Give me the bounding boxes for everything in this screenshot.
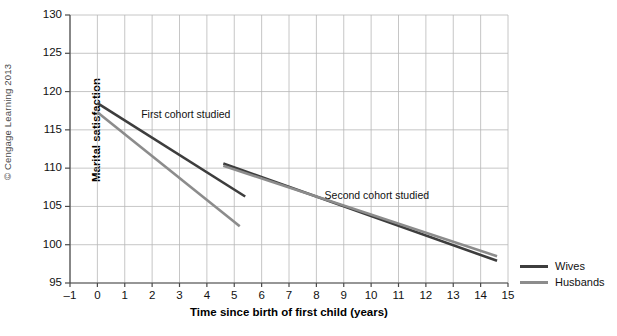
x-axis-tick-label: 3	[165, 289, 195, 301]
x-axis-tick-label: –1	[55, 289, 85, 301]
y-axis-tick-label: 110	[22, 161, 62, 173]
y-axis-tick-label: 125	[22, 46, 62, 58]
y-axis-tick-label: 120	[22, 85, 62, 97]
x-axis-tick-label: 2	[137, 289, 167, 301]
x-axis-tick-label: 1	[110, 289, 140, 301]
x-axis-tick-label: 8	[301, 289, 331, 301]
x-axis-tick-label: 13	[438, 289, 468, 301]
legend-item: Husbands	[520, 274, 605, 290]
legend-label: Wives	[555, 260, 585, 272]
x-axis-tick-label: 4	[192, 289, 222, 301]
marital-satisfaction-figure: © Cengage Learning 2013 Marital satisfac…	[0, 0, 617, 336]
legend-label: Husbands	[555, 276, 605, 288]
x-axis-label: Time since birth of first child (years)	[70, 306, 508, 318]
y-axis-tick-label: 100	[22, 238, 62, 250]
cohort-annotation: First cohort studied	[141, 108, 230, 120]
legend-item: Wives	[520, 258, 605, 274]
y-axis-tick-label: 105	[22, 199, 62, 211]
x-axis-tick-label: 12	[411, 289, 441, 301]
cohort-annotation: Second cohort studied	[325, 189, 430, 201]
x-axis-tick-label: 6	[247, 289, 277, 301]
legend-swatch-icon	[520, 281, 548, 284]
x-axis-tick-label: 7	[274, 289, 304, 301]
y-axis-tick-label: 95	[22, 276, 62, 288]
x-axis-tick-label: 0	[82, 289, 112, 301]
series-line-husbands	[223, 166, 497, 256]
legend-swatch-icon	[520, 265, 548, 268]
x-axis-tick-label: 9	[329, 289, 359, 301]
x-axis-tick-label: 11	[384, 289, 414, 301]
series-line-husbands	[97, 112, 239, 226]
y-axis-tick-label: 130	[22, 8, 62, 20]
y-axis-tick-label: 115	[22, 123, 62, 135]
x-axis-tick-label: 10	[356, 289, 386, 301]
x-axis-tick-label: 5	[219, 289, 249, 301]
chart-legend: WivesHusbands	[520, 258, 605, 290]
x-axis-tick-label: 15	[493, 289, 523, 301]
x-axis-tick-label: 14	[466, 289, 496, 301]
